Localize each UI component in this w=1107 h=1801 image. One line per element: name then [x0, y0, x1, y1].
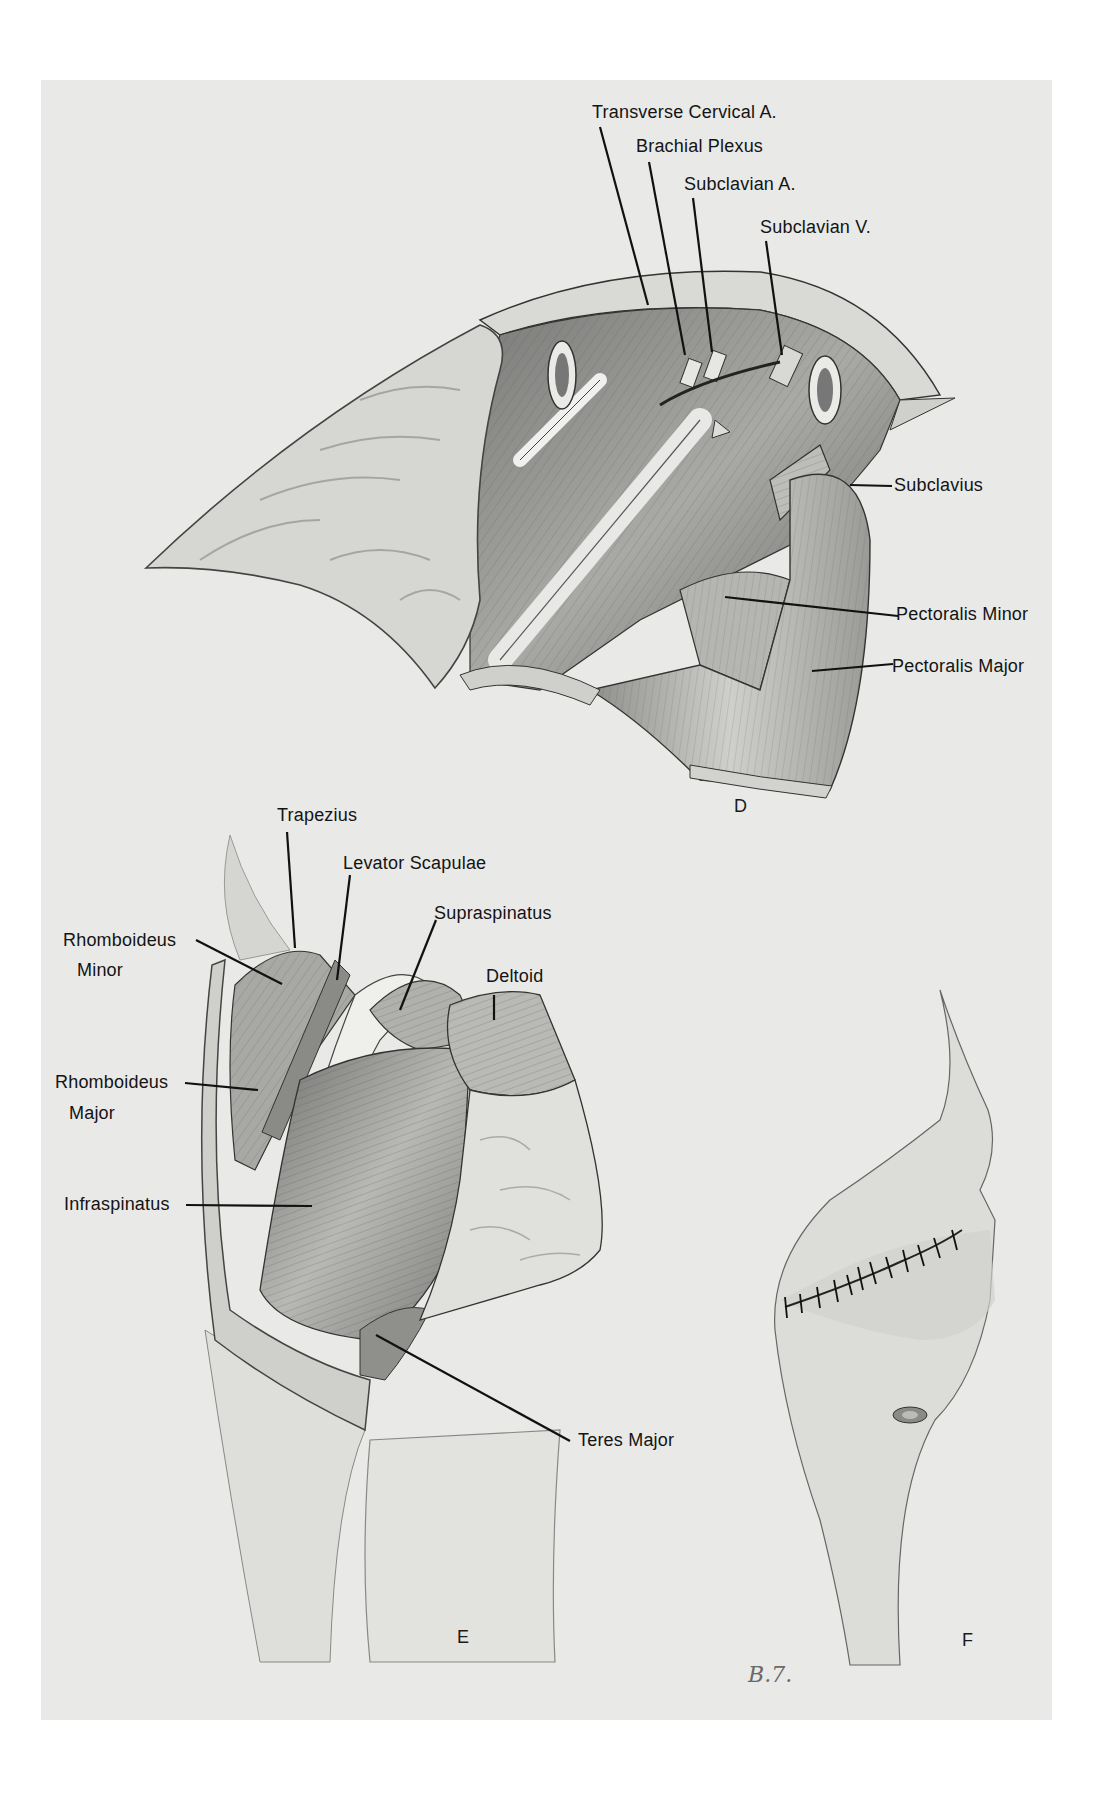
label-trapezius: Trapezius: [277, 805, 357, 825]
label-rhomboideus-minor-line1: Rhomboideus: [63, 930, 176, 950]
label-transverse-cervical-artery: Transverse Cervical A.: [592, 102, 777, 122]
artist-signature: B.7.: [748, 1662, 792, 1687]
label-levator-scapulae: Levator Scapulae: [343, 853, 486, 873]
panel-f-drawing: [775, 990, 995, 1665]
label-subclavian-vein: Subclavian V.: [760, 217, 871, 237]
label-subclavian-artery: Subclavian A.: [684, 174, 796, 194]
label-teres-major: Teres Major: [578, 1430, 674, 1450]
label-supraspinatus: Supraspinatus: [434, 903, 552, 923]
label-rhomboideus-major-line2: Major: [69, 1103, 115, 1123]
label-deltoid: Deltoid: [486, 966, 543, 986]
label-rhomboideus-major-line1: Rhomboideus: [55, 1072, 168, 1092]
panel-letter-e: E: [457, 1627, 469, 1648]
panel-letter-f: F: [962, 1630, 973, 1651]
panel-d-drawing: [146, 271, 955, 798]
label-brachial-plexus: Brachial Plexus: [636, 136, 763, 156]
panel-letter-d: D: [734, 796, 747, 817]
anatomical-illustration: [0, 0, 1107, 1801]
panel-e-drawing: [202, 835, 603, 1662]
label-rhomboideus-minor-line2: Minor: [77, 960, 123, 980]
label-pectoralis-minor: Pectoralis Minor: [896, 604, 1028, 624]
label-infraspinatus: Infraspinatus: [64, 1194, 170, 1214]
label-pectoralis-major: Pectoralis Major: [892, 656, 1024, 676]
label-subclavius: Subclavius: [894, 475, 983, 495]
